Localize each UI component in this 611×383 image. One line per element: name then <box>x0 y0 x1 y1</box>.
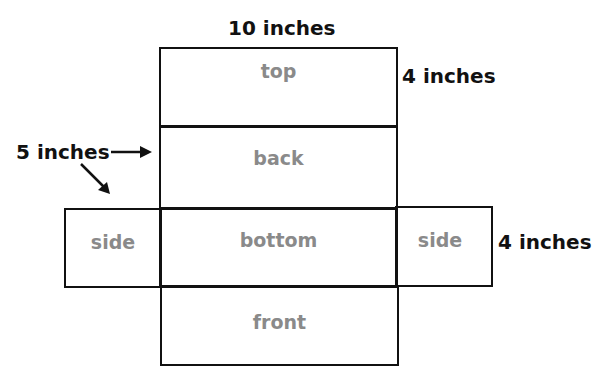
arrow-diagonal-icon <box>81 164 110 194</box>
width-arrows <box>0 0 611 383</box>
arrow-right-icon <box>111 146 152 158</box>
